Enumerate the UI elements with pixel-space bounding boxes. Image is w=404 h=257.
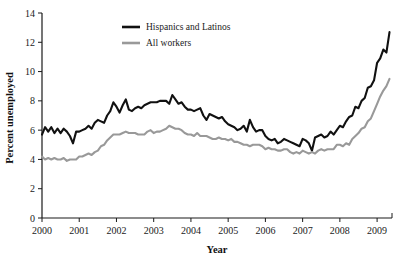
y-tick-label: 2 [30,183,35,194]
unemployment-line-chart: 02468101214 2000200120022003200420052006… [0,0,404,257]
x-tick-label: 2009 [367,225,387,236]
y-tick-label: 4 [30,154,35,165]
chart-legend: Hispanics and LatinosAll workers [122,22,231,48]
x-axis-title: Year [207,244,228,255]
x-tick-label: 2006 [255,225,275,236]
x-tick-label: 2003 [144,225,164,236]
x-tick-label: 2002 [106,225,126,236]
series-line-all-workers [42,79,390,161]
y-tick-label: 14 [25,8,35,19]
y-tick-label: 10 [25,66,35,77]
series-line-hispanics-and-latinos [42,32,390,151]
x-axis: 2000200120022003200420052006200720082009 [32,213,392,236]
x-tick-label: 2000 [32,225,52,236]
x-tick-label: 2001 [69,225,89,236]
y-axis-title: Percent unemployed [4,72,15,164]
x-tick-label: 2004 [181,225,201,236]
x-tick-label: 2008 [330,225,350,236]
series-lines [42,32,390,161]
y-tick-label: 0 [30,213,35,224]
y-tick-label: 8 [30,95,35,106]
legend-label: All workers [146,38,191,48]
y-axis: 02468101214 [25,8,42,224]
x-tick-label: 2007 [293,225,313,236]
legend-label: Hispanics and Latinos [146,22,231,32]
chart-canvas: 02468101214 2000200120022003200420052006… [0,0,404,257]
x-tick-label: 2005 [218,225,238,236]
y-tick-label: 6 [30,125,35,136]
y-tick-label: 12 [25,37,35,48]
